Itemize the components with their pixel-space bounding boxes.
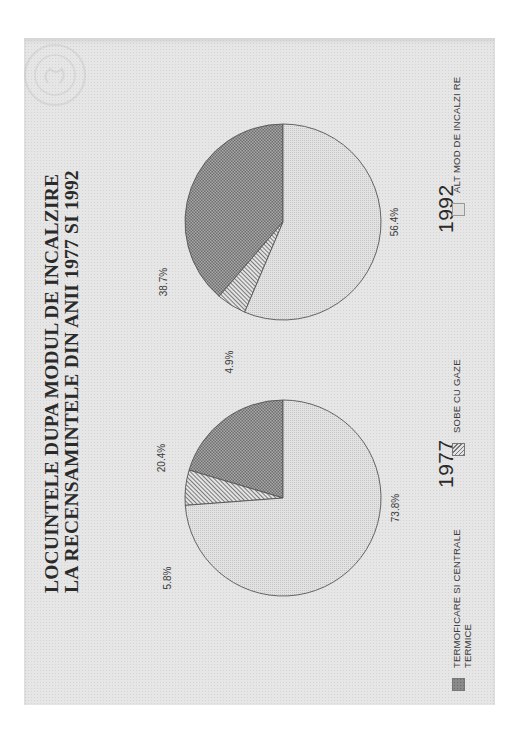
legend-item-alt-mod: ALT MOD DE INCALZI RE <box>451 77 465 216</box>
slice-percent-label: 20.4% <box>156 444 167 472</box>
title-line-2: LA RECENSAMINTELE DIN ANII 1977 SI 1992 <box>62 133 82 593</box>
legend-item-sobe-cu-gaze: SOBE CU GAZE <box>451 359 465 456</box>
light-swatch-icon <box>452 203 465 216</box>
legend-label-termoficare: TERMOFICARE SI CENTRALE TERMICE <box>451 529 473 668</box>
slice-percent-label: 4.9% <box>224 350 235 373</box>
chart-page: LOCUINTELE DUPA MODUL DE INCALZIRE LA RE… <box>24 38 495 705</box>
slice-percent-label: 56.4% <box>389 208 400 236</box>
slice-percent-label: 5.8% <box>162 566 173 589</box>
pie-1992: 38.7%4.9%56.4% <box>158 124 400 373</box>
title-line-1: LOCUINTELE DUPA MODUL DE INCALZIRE <box>42 133 62 593</box>
slice-percent-label: 73.8% <box>390 494 401 522</box>
slice-percent-label: 38.7% <box>158 268 169 296</box>
crosshatch-swatch-icon <box>452 678 465 691</box>
pie-1977: 20.4%5.8%73.8% <box>156 400 401 596</box>
legend-label-sobe-cu-gaze: SOBE CU GAZE <box>451 359 462 433</box>
pie-charts: 20.4%5.8%73.8% 38.7%4.9%56.4% <box>24 38 495 705</box>
legend-item-termoficare: TERMOFICARE SI CENTRALE TERMICE <box>451 529 473 691</box>
diagonal-hatch-swatch-icon <box>452 443 465 456</box>
chart-title: LOCUINTELE DUPA MODUL DE INCALZIRE LA RE… <box>42 133 82 593</box>
legend-label-alt-mod: ALT MOD DE INCALZI RE <box>451 77 462 193</box>
